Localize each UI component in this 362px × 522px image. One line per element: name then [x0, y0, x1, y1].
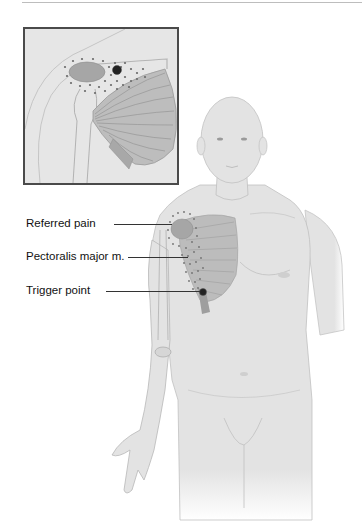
label-trigger-point: Trigger point	[26, 284, 90, 297]
leader-referred-pain	[114, 224, 172, 225]
label-pectoralis-major: Pectoralis major m.	[26, 250, 124, 263]
inset-illustration	[25, 29, 177, 183]
leader-pectoralis-major	[128, 257, 188, 258]
inset-closeup	[23, 27, 179, 185]
label-referred-pain: Referred pain	[26, 217, 96, 230]
leader-trigger-point	[106, 291, 200, 292]
